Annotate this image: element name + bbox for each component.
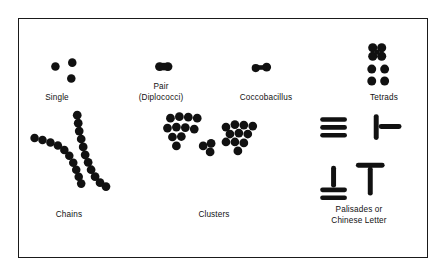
label-chains: Chains <box>31 210 107 221</box>
group-chains <box>30 111 110 191</box>
label-pair: Pair (Diplococci) <box>125 82 197 103</box>
group-palisades <box>320 114 401 200</box>
label-tetrads: Tetrads <box>346 93 422 104</box>
label-single: Single <box>19 93 95 104</box>
group-clusters <box>163 112 257 156</box>
group-coccobacillus <box>252 63 271 73</box>
label-coccobacillus: Coccobacillus <box>224 93 308 104</box>
diagram-frame: Single Pair (Diplococci) Coccobacillus T… <box>18 18 428 258</box>
label-palisades: Palisades or Chinese Letter <box>311 205 407 226</box>
group-single <box>51 58 76 82</box>
label-clusters: Clusters <box>176 210 252 221</box>
group-pair <box>155 62 172 71</box>
group-tetrads <box>367 43 389 85</box>
